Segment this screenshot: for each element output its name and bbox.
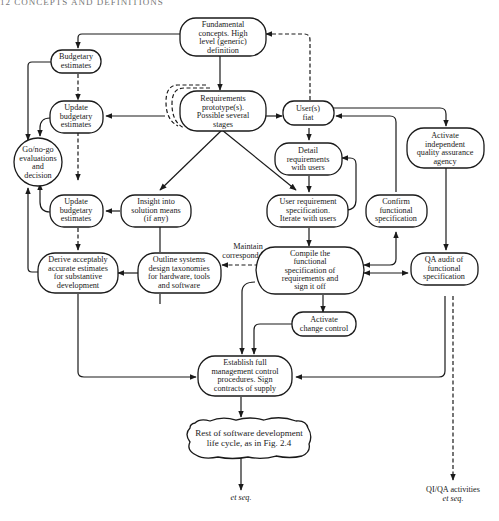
node-go-no-go: Go/no-goevaluationsanddecision (14, 138, 62, 186)
edge-compile-confirm (364, 232, 396, 265)
node-confirm-functional-spec: Confirmfunctionalspecification (366, 195, 427, 227)
edge-confirm-fiat (336, 116, 396, 192)
node-users-fiat: User(s)fiat (283, 101, 334, 125)
edge-changecontrol-establish (254, 324, 292, 354)
node-fundamental: Fundamentalconcepts. Highlevel (generic)… (180, 18, 266, 56)
edge-update2-gonogo (40, 184, 50, 212)
label-et-seq-qa: et seq. (443, 494, 464, 503)
svg-text:QA audit offunctionalspecifica: QA audit offunctionalspecification (423, 255, 465, 281)
node-activate-qa-agency: Activateindependentquality assuranceagen… (407, 128, 484, 168)
node-establish-management-control: Establish fullmanagement controlprocedur… (198, 356, 292, 396)
node-rest-of-lifecycle: Rest of software developmentlife cycle, … (187, 418, 311, 459)
edge-derive-establish (78, 294, 196, 377)
node-derive-estimates: Derive acceptablyaccurate estimatesfor s… (38, 253, 118, 293)
node-detail-requirements: Detailrequirementswith users (275, 143, 342, 175)
label-et-seq-main: et seq. (231, 493, 252, 502)
node-compile-functional-spec: Compile thefunctionalspecification ofreq… (256, 247, 364, 294)
svg-text:Go/no-goevaluationsanddecision: Go/no-goevaluationsanddecision (19, 145, 56, 180)
node-activate-change-control: Activatechange control (292, 312, 356, 336)
svg-text:User requirementspecification.: User requirementspecification.Iterate wi… (279, 197, 337, 223)
flowchart: Fundamentalconcepts. Highlevel (generic)… (0, 0, 499, 521)
node-budgetary-estimates: Budgetaryestimates (51, 50, 101, 73)
node-qa-audit: QA audit offunctionalspecification (411, 253, 478, 285)
node-update-budgetary-1: Updatebudgetaryestimates (50, 101, 103, 133)
label-qi-qa-activities: QI/QA activities (426, 485, 480, 494)
node-insight-solution: Insight intosolution means(if any) (121, 195, 191, 227)
edge-fiat-activateqa (332, 108, 446, 126)
svg-text:Rest of software developmentli: Rest of software developmentlife cycle, … (195, 428, 303, 448)
edge-fundamental-budgetary (78, 34, 180, 48)
node-update-budgetary-2: Updatebudgetaryestimates (50, 195, 103, 227)
edge-compile-establish (242, 282, 255, 354)
node-outline-systems: Outline systemsdesign taxonomiesfor hard… (138, 253, 221, 293)
svg-text:Budgetaryestimates: Budgetaryestimates (59, 52, 94, 70)
edge-update1-gonogo (40, 118, 50, 136)
node-requirements-prototype: Requirementsprototype(s).Possible severa… (166, 85, 266, 131)
edge-prototype-insight (160, 130, 222, 190)
edge-derive-gonogo (28, 188, 38, 272)
edge-fiat-fundamental (266, 34, 310, 100)
node-user-requirement-spec: User requirementspecification.Iterate wi… (267, 195, 348, 227)
